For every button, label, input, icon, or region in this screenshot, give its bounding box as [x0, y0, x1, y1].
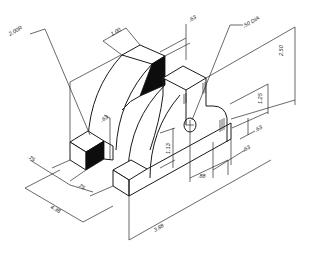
dim-overall-height: 2.50 — [278, 44, 284, 57]
dim-hole-offset-y: .63 — [242, 143, 252, 152]
isometric-part-drawing: 2.00R 1.00 .63 .50 DIA 2.50 1.25 .63 .63… — [0, 0, 311, 256]
dim-inner-arc: .63 — [100, 113, 110, 122]
dim-top-depth: .63 — [188, 13, 198, 22]
part-outline — [70, 45, 231, 196]
dim-block-height: 1.13 — [165, 142, 171, 154]
dim-overall-depth: 4.38 — [50, 204, 63, 215]
dim-hole-center-height: 1.25 — [257, 92, 263, 104]
dim-hole-dia: .50 DIA — [242, 14, 261, 29]
dim-outer-radius: 2.00R — [7, 24, 24, 37]
dim-overall-width: 3.88 — [153, 222, 166, 233]
dim-hole-offset-x: .88 — [198, 173, 207, 179]
dim-top-width: 1.00 — [110, 26, 123, 37]
dim-boss-offset: .63 — [254, 123, 264, 132]
dim-left-step-a: .75 — [27, 154, 37, 163]
